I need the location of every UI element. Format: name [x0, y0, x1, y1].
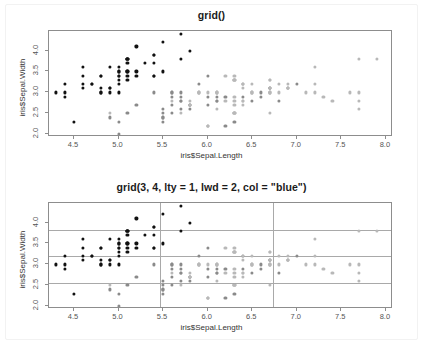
- data-point: [313, 66, 316, 69]
- x-axis-tick-label: 5.5: [157, 140, 167, 149]
- data-point: [99, 74, 102, 77]
- data-point: [224, 95, 227, 98]
- data-point: [206, 267, 209, 270]
- data-point: [188, 221, 191, 224]
- data-point: [179, 267, 182, 270]
- data-point: [170, 91, 173, 94]
- data-point: [206, 275, 209, 278]
- data-point: [242, 87, 245, 90]
- x-axis-title-bottom: iris$Sepal.Length: [0, 323, 423, 332]
- y-axis-tick-label: 4.0: [31, 216, 40, 226]
- data-point: [81, 87, 84, 90]
- data-point: [99, 263, 102, 266]
- data-point: [233, 112, 236, 115]
- data-point: [215, 263, 218, 266]
- data-point: [179, 99, 182, 102]
- data-point: [242, 259, 245, 262]
- data-point: [170, 103, 173, 106]
- y-axis-tick: [45, 263, 48, 264]
- gridline-horizontal: [49, 283, 391, 284]
- data-point: [358, 91, 361, 94]
- data-point: [81, 238, 84, 241]
- data-point: [286, 254, 289, 257]
- y-axis-tick: [45, 50, 48, 51]
- data-point: [179, 229, 182, 232]
- data-point: [117, 254, 120, 257]
- data-point: [215, 107, 218, 110]
- data-point: [90, 254, 93, 257]
- data-point: [277, 91, 280, 94]
- x-axis-tick: [73, 308, 74, 311]
- x-axis-tick: [207, 308, 208, 311]
- data-point: [331, 271, 334, 274]
- x-axis-tick-label: 4.5: [68, 312, 78, 321]
- data-point: [117, 242, 120, 245]
- data-point: [170, 99, 173, 102]
- data-point: [206, 263, 209, 266]
- data-point: [161, 107, 164, 110]
- data-point: [117, 91, 120, 94]
- y-axis-tick: [45, 242, 48, 243]
- x-axis-tick: [118, 308, 119, 311]
- data-point: [161, 120, 164, 123]
- chart-title-top: grid(): [0, 9, 423, 21]
- data-point: [215, 95, 218, 98]
- data-point: [108, 66, 111, 69]
- x-axis-tick-label: 6.0: [201, 140, 211, 149]
- data-point: [170, 267, 173, 270]
- chart-panel-top: grid() iris$Sepal.Length iris$Sepal.Widt…: [0, 0, 423, 172]
- data-point: [135, 217, 138, 220]
- data-point: [170, 284, 173, 287]
- y-axis-tick: [45, 133, 48, 134]
- data-point: [161, 70, 164, 73]
- data-point: [135, 103, 138, 106]
- data-point: [117, 120, 120, 123]
- data-point: [224, 99, 227, 102]
- data-point: [233, 103, 236, 106]
- x-axis-tick-label: 5.0: [112, 312, 122, 321]
- data-point: [153, 53, 156, 56]
- data-point: [215, 267, 218, 270]
- data-point: [206, 74, 209, 77]
- data-point: [179, 57, 182, 60]
- x-axis-tick-label: 8.0: [380, 312, 390, 321]
- data-point: [224, 267, 227, 270]
- data-point: [81, 246, 84, 249]
- data-point: [224, 296, 227, 299]
- x-axis-tick: [385, 308, 386, 311]
- data-point: [188, 271, 191, 274]
- data-point: [153, 74, 156, 77]
- data-point: [349, 91, 352, 94]
- data-point: [188, 275, 191, 278]
- data-point: [126, 250, 129, 253]
- data-point: [349, 263, 352, 266]
- data-point: [224, 124, 227, 127]
- data-point: [126, 57, 129, 60]
- data-point: [268, 112, 271, 115]
- data-point: [233, 78, 236, 81]
- data-point: [108, 87, 111, 90]
- data-point: [153, 246, 156, 249]
- data-point: [108, 288, 111, 291]
- data-point: [268, 263, 271, 266]
- data-point: [295, 82, 298, 85]
- data-point: [206, 91, 209, 94]
- x-axis-tick: [162, 308, 163, 311]
- data-point: [277, 263, 280, 266]
- data-point: [72, 120, 75, 123]
- y-axis-tick-label: 3.0: [31, 86, 40, 96]
- data-point: [233, 99, 236, 102]
- data-point: [322, 267, 325, 270]
- data-point: [251, 263, 254, 266]
- data-point: [251, 254, 254, 257]
- data-point: [117, 66, 120, 69]
- data-point: [161, 41, 164, 44]
- data-point: [99, 246, 102, 249]
- data-point: [242, 275, 245, 278]
- data-point: [126, 78, 129, 81]
- data-point: [295, 254, 298, 257]
- data-point: [268, 78, 271, 81]
- data-point: [135, 45, 138, 48]
- x-axis-tick-label: 7.5: [335, 140, 345, 149]
- data-point: [161, 213, 164, 216]
